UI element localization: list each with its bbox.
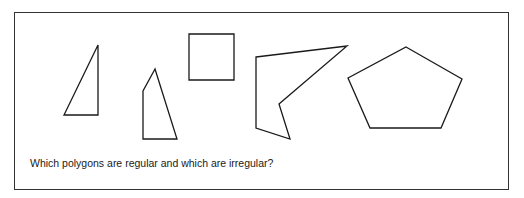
regular-pentagon-shape: [348, 47, 462, 128]
right-triangle-shape: [64, 45, 98, 115]
irregular-quadrilateral-shape: [143, 69, 177, 139]
question-text: Which polygons are regular and which are…: [30, 157, 273, 169]
square-shape: [189, 34, 234, 80]
irregular-pentagon-shape: [256, 46, 347, 139]
